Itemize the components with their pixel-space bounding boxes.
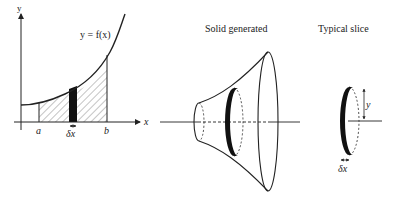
- typical-slice: Typical slice y δx: [318, 23, 382, 174]
- function-graph: y x y = f(x) a b δx: [14, 3, 149, 139]
- x-axis-label: x: [143, 116, 149, 127]
- a-label: a: [36, 125, 41, 136]
- solid-slice: [225, 88, 238, 156]
- solid-bottom-edge: [199, 141, 268, 191]
- slice-dx-label: δx: [338, 163, 348, 174]
- volume-of-revolution-diagram: y x y = f(x) a b δx Solid generated Typi…: [0, 0, 397, 208]
- y-axis-label: y: [17, 3, 22, 13]
- b-label: b: [104, 125, 109, 136]
- large-end-ellipse: [258, 52, 278, 191]
- dx-label: δx: [66, 128, 76, 139]
- solid-of-revolution: Solid generated: [160, 23, 300, 191]
- slice-title: Typical slice: [318, 23, 369, 34]
- solid-title: Solid generated: [205, 23, 267, 34]
- solid-top-edge: [199, 52, 268, 103]
- radius-label: y: [365, 99, 371, 110]
- curve-label: y = f(x): [80, 29, 111, 41]
